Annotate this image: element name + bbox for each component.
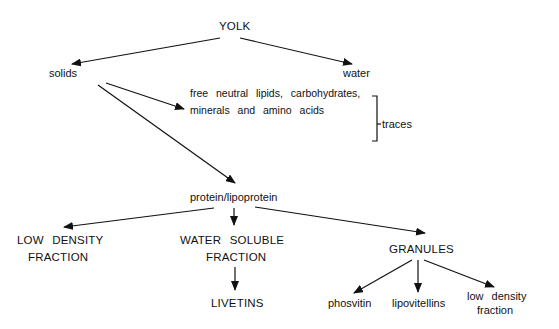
node-wsf-line2: FRACTION [206,251,266,264]
node-traces-label: traces [382,118,412,131]
node-phosvitin: phosvitin [328,297,371,310]
edge-granules-phosvitin [354,260,412,293]
edge-yolk-water [240,38,352,64]
node-ldf-line2: FRACTION [28,251,88,264]
traces-bracket [372,96,377,141]
edge-protein-granules [255,207,425,233]
node-lipovitellins: lipovitellins [392,297,445,310]
edge-solids-traces [106,83,184,109]
edge-granules-gldf [424,260,494,287]
node-gldf-line2: fraction [477,304,513,317]
diagram-edges [0,0,559,329]
node-ldf-line1: LOW DENSITY [17,234,103,247]
node-water: water [343,67,370,80]
edge-yolk-solids [72,38,220,64]
node-yolk: YOLK [219,20,250,33]
node-wsf-line1: WATER SOLUBLE [180,234,284,247]
node-solids: solids [49,67,77,80]
node-traces-line2: minerals and amino acids [190,104,324,117]
node-protein-lipoprotein: protein/lipoprotein [190,191,277,204]
node-traces-line1: free neutral lipids, carbohydrates, [190,87,360,100]
node-gldf-line1: low density [467,290,526,303]
node-livetins: LIVETINS [211,297,264,310]
edge-protein-ldf [64,208,214,227]
node-granules: GRANULES [389,243,454,256]
